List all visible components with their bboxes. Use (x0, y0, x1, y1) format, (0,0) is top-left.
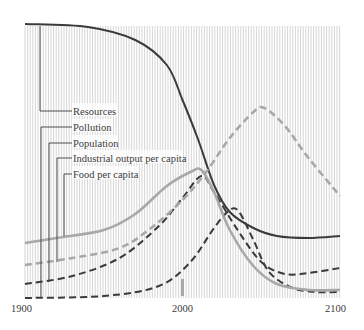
leader-food (64, 174, 72, 236)
label-food-per-capita: Food per capita (73, 169, 139, 180)
x-tick-1900: 1900 (11, 303, 32, 314)
label-population: Population (73, 138, 119, 149)
x-tick-2100: 2100 (325, 303, 346, 314)
label-resources: Resources (73, 106, 116, 117)
label-pollution: Pollution (73, 122, 112, 133)
present-marker (181, 279, 184, 296)
series-labels: Resources Pollution Population Industria… (72, 103, 187, 180)
world-model-chart: Resources Pollution Population Industria… (0, 0, 364, 330)
label-industrial-output: Industrial output per capita (73, 153, 187, 164)
x-tick-2000: 2000 (172, 303, 193, 314)
